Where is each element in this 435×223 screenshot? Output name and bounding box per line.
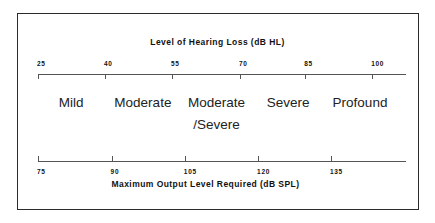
hearing-loss-scale-figure: Level of Hearing Loss (dB HL) 2540557085… bbox=[0, 0, 435, 223]
output-level-tick-label: 135 bbox=[330, 168, 343, 175]
category-label: Moderate bbox=[114, 95, 171, 110]
hearing-loss-tick bbox=[240, 74, 241, 79]
hearing-loss-tick bbox=[105, 74, 106, 79]
hearing-loss-category: Mild bbox=[59, 92, 84, 114]
output-level-tick-label: 90 bbox=[111, 168, 120, 175]
hearing-loss-tick bbox=[38, 74, 39, 79]
category-label: Moderate bbox=[188, 95, 245, 110]
hearing-loss-category-band: MildModerateModerate/SevereSevereProfoun… bbox=[38, 92, 406, 150]
output-level-tick bbox=[258, 156, 259, 161]
output-level-tick-label: 75 bbox=[37, 168, 46, 175]
hearing-loss-axis: 2540557085100 bbox=[38, 74, 406, 75]
hearing-loss-tick-label: 100 bbox=[371, 60, 384, 67]
hearing-loss-tick-label: 70 bbox=[239, 60, 248, 67]
top-axis-title: Level of Hearing Loss (dB HL) bbox=[0, 37, 435, 47]
category-label-line2: /Severe bbox=[188, 114, 245, 136]
bottom-axis-title: Maximum Output Level Required (dB SPL) bbox=[0, 179, 423, 189]
output-level-tick-label: 105 bbox=[184, 168, 197, 175]
output-level-tick bbox=[185, 156, 186, 161]
output-level-tick bbox=[38, 156, 39, 161]
hearing-loss-tick-label: 25 bbox=[37, 60, 46, 67]
output-level-tick bbox=[112, 156, 113, 161]
category-label: Severe bbox=[267, 95, 310, 110]
output-level-tick-label: 120 bbox=[257, 168, 270, 175]
hearing-loss-tick-label: 55 bbox=[171, 60, 180, 67]
output-level-tick bbox=[331, 156, 332, 161]
hearing-loss-category: Moderate bbox=[114, 92, 171, 114]
hearing-loss-tick-label: 40 bbox=[104, 60, 113, 67]
hearing-loss-category: Severe bbox=[267, 92, 310, 114]
hearing-loss-category: Moderate/Severe bbox=[188, 92, 245, 136]
bottom-axis-line bbox=[38, 161, 406, 162]
category-label: Mild bbox=[59, 95, 84, 110]
top-axis-line bbox=[38, 74, 406, 75]
category-label: Profound bbox=[333, 95, 388, 110]
hearing-loss-category: Profound bbox=[333, 92, 388, 114]
hearing-loss-tick bbox=[172, 74, 173, 79]
hearing-loss-tick bbox=[372, 74, 373, 79]
hearing-loss-tick-label: 85 bbox=[304, 60, 313, 67]
hearing-loss-tick bbox=[305, 74, 306, 79]
output-level-axis: 7590105120135 bbox=[38, 161, 406, 162]
